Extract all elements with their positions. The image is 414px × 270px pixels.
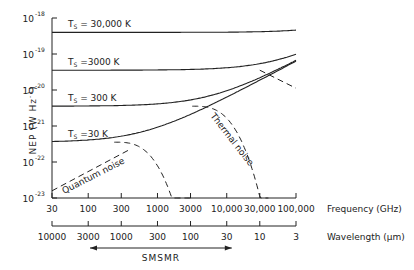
arrow-right-icon bbox=[225, 246, 232, 251]
series-label-rest: = 30,000 K bbox=[77, 19, 132, 29]
nep-curve bbox=[52, 30, 296, 32]
y-tick-label-exponent: -19 bbox=[35, 46, 45, 53]
x2-tick-label: 3000 bbox=[77, 232, 100, 242]
y-tick-label-exponent: -18 bbox=[35, 10, 45, 17]
x2-tick-label: 30 bbox=[221, 232, 233, 242]
x-tick-label: 100,000 bbox=[277, 204, 314, 214]
y-axis-label-exponent: -1 bbox=[26, 90, 33, 98]
thermal-noise-label: Thermal noise bbox=[208, 110, 256, 168]
x-tick-label: 1000 bbox=[146, 204, 169, 214]
x-tick-label: 300 bbox=[113, 204, 130, 214]
labels: 10-1810-1910-2010-2110-2210-23NEP (W Hz-… bbox=[23, 10, 405, 263]
x-tick-label: 100 bbox=[80, 204, 97, 214]
series-label: TS =30 K bbox=[67, 129, 109, 140]
x2-tick-label: 3 bbox=[293, 232, 299, 242]
y-tick-label: 10 bbox=[23, 194, 35, 204]
x-tick-label: 30 bbox=[46, 204, 58, 214]
x-tick-label: 10,000 bbox=[211, 204, 243, 214]
y-axis-label: NEP (W Hz-1) bbox=[26, 86, 38, 155]
x-tick-label: 30,000 bbox=[244, 204, 276, 214]
smsmr-label: SMSMR bbox=[142, 253, 180, 263]
x2-tick-label: 100 bbox=[182, 232, 199, 242]
y-axis-label-close: ) bbox=[28, 86, 38, 91]
series-label-rest: = 300 K bbox=[77, 93, 117, 103]
x2-tick-label: 1000 bbox=[110, 232, 133, 242]
y-tick-label-exponent: -23 bbox=[35, 190, 45, 197]
thermal-noise-curve bbox=[192, 106, 268, 198]
series-label: TS = 300 K bbox=[67, 93, 118, 104]
series-label: TS = 30,000 K bbox=[67, 19, 132, 30]
y-tick-label: 10 bbox=[23, 14, 35, 24]
y-tick-label: 10 bbox=[23, 50, 35, 60]
x-tick-label: 3000 bbox=[179, 204, 202, 214]
thermal-noise-curve bbox=[114, 142, 190, 198]
x2-tick-label: 10000 bbox=[38, 232, 67, 242]
series-label-rest: =3000 K bbox=[77, 57, 120, 67]
x-axis-label: Frequency (GHz) bbox=[327, 204, 402, 214]
nep-chart: 10-1810-1910-2010-2110-2210-23NEP (W Hz-… bbox=[0, 0, 414, 270]
series-label: TS =3000 K bbox=[67, 57, 120, 68]
series-label-rest: =30 K bbox=[77, 129, 109, 139]
arrow-left-icon bbox=[90, 246, 97, 251]
x2-tick-label: 10 bbox=[254, 232, 266, 242]
y-tick-label: 10 bbox=[23, 158, 35, 168]
x2-tick-label: 300 bbox=[149, 232, 166, 242]
x2-axis-label: Wavelength (μm) bbox=[327, 232, 405, 242]
quantum-noise-label: Quantum noise bbox=[60, 155, 126, 195]
thermal-noise-curve bbox=[260, 70, 296, 88]
